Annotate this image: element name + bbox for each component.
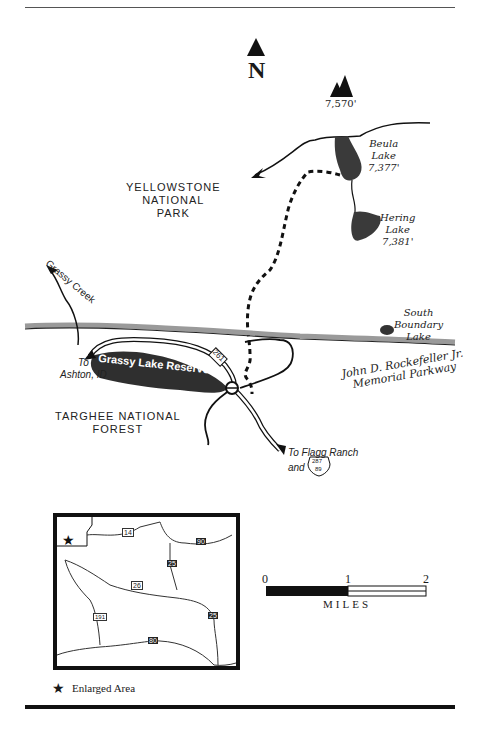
us-89-label: 89 bbox=[315, 466, 322, 472]
to-ashton-label: ToAshton, ID bbox=[60, 357, 107, 381]
hering-lake-label: HeringLake7,381' bbox=[380, 212, 415, 248]
hering-lake bbox=[351, 211, 380, 240]
scale-bar bbox=[266, 586, 426, 596]
mountain-peak-icon bbox=[330, 75, 353, 97]
inset-star-icon: ★ bbox=[62, 532, 75, 548]
bottom-rule bbox=[25, 705, 455, 709]
yellowstone-label: YELLOWSTONENATIONALPARK bbox=[126, 181, 221, 220]
targhee-label: TARGHEE NATIONALFOREST bbox=[55, 410, 181, 436]
us-287-label: 287 bbox=[312, 458, 322, 464]
inset-us26: 26 bbox=[131, 581, 143, 590]
legend-label: Enlarged Area bbox=[72, 682, 135, 694]
beula-lake-label: BeulaLake7,377' bbox=[368, 138, 399, 174]
peak-elevation: 7,570' bbox=[325, 98, 356, 110]
scale-tick-0: 0 bbox=[262, 572, 268, 587]
inset-us14: 14 bbox=[122, 528, 134, 537]
inset-i25b: 25 bbox=[208, 612, 218, 619]
inset-i90: 90 bbox=[196, 538, 206, 545]
scale-tick-2: 2 bbox=[423, 572, 429, 587]
inset-i25a: 25 bbox=[167, 560, 177, 567]
scale-tick-1: 1 bbox=[345, 572, 351, 587]
north-arrow-icon bbox=[247, 38, 265, 56]
scale-unit: MILES bbox=[323, 598, 371, 610]
south-boundary-lake-label: SouthBoundaryLake bbox=[394, 307, 443, 343]
compass-label: N bbox=[248, 57, 265, 84]
inset-i80: 80 bbox=[148, 637, 158, 644]
legend-star-icon: ★ bbox=[52, 680, 65, 696]
stream-arrow-icon bbox=[251, 168, 266, 178]
inset-us191: 191 bbox=[93, 613, 107, 621]
to-flagg-label: To Flagg Ranch bbox=[288, 447, 358, 459]
south-boundary-lake bbox=[380, 325, 394, 335]
and-label: and bbox=[288, 462, 305, 474]
